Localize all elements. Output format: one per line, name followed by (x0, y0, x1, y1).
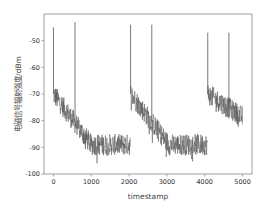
y-tick-label: -50 (29, 37, 40, 45)
x-tick-label: 1000 (83, 178, 100, 186)
y-tick-label: -70 (29, 90, 40, 98)
y-tick-label: -60 (29, 64, 40, 72)
y-tick-label: -90 (29, 144, 40, 152)
y-tick-label: -100 (25, 170, 40, 178)
x-tick-label: 2000 (121, 178, 138, 186)
y-axis-label: 电磁信号辐射强度/dBm (13, 56, 23, 132)
x-axis-label: timestamp (128, 192, 169, 201)
chart: 010002000300040005000 -100-90-80-70-60-5… (0, 0, 269, 212)
y-tick-label: -80 (29, 117, 40, 125)
y-axis: -100-90-80-70-60-50 (25, 37, 44, 178)
x-axis: 010002000300040005000 (51, 174, 250, 186)
x-tick-label: 3000 (159, 178, 176, 186)
x-tick-label: 0 (51, 178, 55, 186)
x-tick-label: 5000 (234, 178, 251, 186)
x-tick-label: 4000 (196, 178, 213, 186)
